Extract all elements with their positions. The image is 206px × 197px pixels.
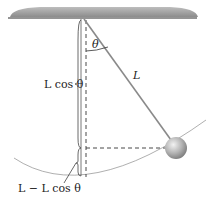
height-leader-line	[64, 163, 76, 183]
pendulum-bob	[165, 137, 187, 159]
brace-height	[76, 148, 81, 176]
ceiling	[10, 7, 198, 17]
vertical-component-label: L cos θ	[44, 78, 84, 91]
height-label: L − L cos θ	[18, 182, 81, 195]
theta-label: θ	[92, 38, 99, 51]
length-label: L	[132, 69, 140, 82]
pendulum-diagram: θ L L cos θ L − L cos θ	[0, 0, 206, 197]
